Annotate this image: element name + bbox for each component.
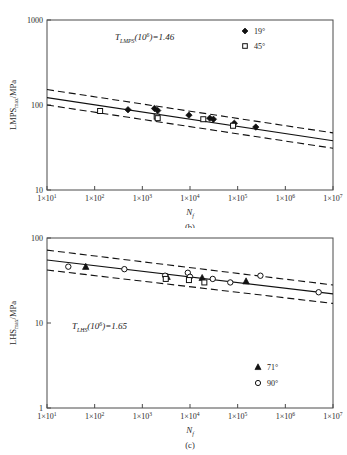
panel-caption-text: (c): [185, 440, 195, 450]
y-tick-label: 1000: [27, 16, 43, 25]
legend-marker-filled-triangle: [255, 364, 261, 370]
y-tick-label: 10: [35, 319, 43, 328]
data-point-filled-diamond: [186, 112, 192, 118]
data-point-open-square: [202, 280, 207, 285]
panel-caption: (c): [185, 440, 195, 450]
chart-panel-c: 1×1011×1021×1031×1041×1051×1061×10711010…: [0, 218, 347, 455]
x-axis-title: Nf: [185, 207, 195, 219]
y-tick-label: 100: [31, 234, 43, 243]
y-axis-ticks: 110100: [31, 234, 51, 413]
x-axis-ticks: 1×1011×1021×1031×1041×1051×1061×107: [37, 404, 343, 421]
y-axis-title-text: LHSmax/MPa: [8, 301, 19, 345]
chart-annotation: TLHS(106)=1.65: [72, 321, 128, 333]
data-point-open-circle: [210, 276, 215, 281]
legend-label: 19°: [254, 27, 265, 36]
annotation-text: TLHS(106)=1.65: [72, 321, 128, 333]
x-tick-label: 1×103: [133, 193, 153, 203]
y-tick-label: 10: [35, 186, 43, 195]
legend-label: 45°: [254, 42, 265, 51]
data-point-open-square: [186, 278, 191, 283]
chart-c-canvas: 1×1011×1021×1031×1041×1051×1061×10711010…: [0, 218, 347, 455]
mean-fit: [47, 98, 333, 141]
data-point-open-circle: [258, 273, 263, 278]
x-axis-title-text: Nf: [185, 207, 195, 219]
x-axis-ticks: 1×1011×1021×1031×1041×1051×1061×107: [37, 186, 343, 203]
x-tick-label: 1×106: [276, 193, 296, 203]
data-point-open-square: [163, 276, 168, 281]
chart-panel-b: 1×1011×1021×1031×1041×1051×1061×10710100…: [0, 0, 347, 228]
legend-marker-open-circle: [255, 380, 260, 385]
x-tick-label: 1×102: [85, 411, 105, 421]
plot-frame: [47, 20, 333, 190]
legend-label: 71°: [267, 363, 278, 372]
data-point-open-square: [201, 117, 206, 122]
y-tick-label: 100: [31, 101, 43, 110]
data-point-filled-triangle: [243, 278, 249, 284]
data-point-open-circle: [66, 264, 71, 269]
x-tick-label: 1×107: [323, 193, 343, 203]
data-point-open-circle: [122, 266, 127, 271]
legend-marker-open-square: [243, 44, 248, 49]
y-tick-label: 1: [39, 404, 43, 413]
data-point-open-circle: [228, 280, 233, 285]
x-tick-label: 1×104: [180, 193, 200, 203]
x-tick-label: 1×105: [228, 411, 248, 421]
x-axis-title: Nf: [185, 425, 195, 437]
data-point-filled-diamond: [125, 107, 131, 113]
x-tick-label: 1×102: [85, 193, 105, 203]
series-90°: [66, 264, 322, 295]
x-axis-title-text: Nf: [185, 425, 195, 437]
y-axis-title-text: LMPSmax/MPa: [8, 80, 19, 130]
legend-marker-filled-diamond: [242, 28, 248, 34]
chart-annotation: TLMPS(106)=1.46: [115, 32, 175, 44]
legend-label: 90°: [267, 379, 278, 388]
scatter-fit-line: [47, 98, 333, 141]
data-point-open-circle: [316, 290, 321, 295]
x-tick-label: 1×104: [180, 411, 200, 421]
annotation-text: TLMPS(106)=1.46: [115, 32, 175, 44]
x-tick-label: 1×103: [133, 411, 153, 421]
x-tick-label: 1×107: [323, 411, 343, 421]
data-point-open-square: [155, 116, 160, 121]
chart-legend: 71°90°: [255, 363, 278, 388]
x-tick-label: 1×106: [276, 411, 296, 421]
chart-b-canvas: 1×1011×1021×1031×1041×1051×1061×10710100…: [0, 0, 347, 228]
data-point-open-square: [231, 123, 236, 128]
data-point-open-square: [98, 108, 103, 113]
chart-legend: 19°45°: [242, 27, 265, 51]
x-tick-label: 1×105: [228, 193, 248, 203]
y-axis-title: LHSmax/MPa: [8, 301, 19, 345]
y-axis-title: LMPSmax/MPa: [8, 80, 19, 130]
